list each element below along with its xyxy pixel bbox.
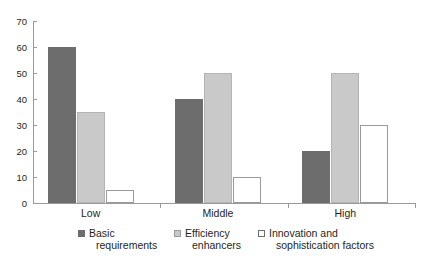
x-axis-category-label: Low [48, 207, 134, 219]
y-axis-tick-label: 10 [0, 173, 27, 183]
x-axis-tick-mark [415, 203, 416, 208]
y-axis-tick-mark [33, 203, 37, 204]
bar [106, 190, 134, 203]
legend-swatch-icon [258, 230, 265, 237]
bar [204, 73, 232, 203]
x-axis-line [33, 203, 415, 204]
legend-label-line: Basic [89, 228, 157, 240]
legend-label: Basicrequirements [89, 228, 157, 251]
y-axis-tick-label: 40 [0, 95, 27, 105]
legend-item: Efficiencyenhancers [174, 228, 258, 251]
y-axis-tick-label: 70 [0, 17, 27, 27]
legend-label-line: requirements [89, 240, 157, 252]
legend-swatch-icon [78, 230, 85, 237]
x-axis-tick-mark [160, 203, 161, 208]
bar [48, 47, 76, 203]
legend-item: Innovation andsophistication factors [258, 228, 408, 251]
legend-label-line: sophistication factors [269, 240, 374, 252]
legend-label: Innovation andsophistication factors [269, 228, 374, 251]
plot-area [33, 21, 415, 203]
bar [175, 99, 203, 203]
y-axis-tick-label: 20 [0, 147, 27, 157]
bar [77, 112, 105, 203]
bar [302, 151, 330, 203]
x-axis-category-label: Middle [175, 207, 261, 219]
y-axis-tick-label: 50 [0, 69, 27, 79]
legend-swatch-icon [174, 230, 181, 237]
legend-label-line: Efficiency [185, 228, 241, 240]
y-axis-tick-label: 30 [0, 121, 27, 131]
bar [360, 125, 388, 203]
x-axis-tick-mark [288, 203, 289, 208]
chart-legend: BasicrequirementsEfficiencyenhancersInno… [78, 228, 408, 251]
y-axis-tick-label: 0 [0, 199, 27, 209]
legend-label-line: enhancers [185, 240, 241, 252]
bar-chart-figure: 010203040506070 LowMiddleHigh Basicrequi… [0, 0, 434, 262]
bar [331, 73, 359, 203]
legend-label: Efficiencyenhancers [185, 228, 241, 251]
x-axis-category-label: High [302, 207, 388, 219]
y-axis-tick-label: 60 [0, 43, 27, 53]
bar [233, 177, 261, 203]
legend-label-line: Innovation and [269, 228, 374, 240]
legend-item: Basicrequirements [78, 228, 174, 251]
